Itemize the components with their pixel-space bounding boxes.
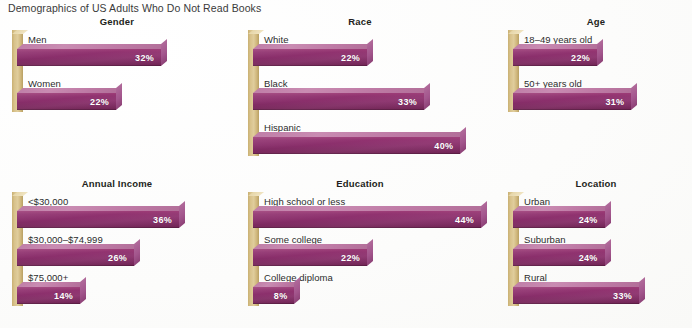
bar-end-cap [597, 39, 603, 66]
bar-value-label: 44% [455, 215, 474, 225]
bar-top-face [513, 88, 637, 93]
bar: 22% [253, 49, 367, 66]
bar-top-face [253, 44, 373, 49]
panel-race: RaceWhite22%Black33%Hispanic40% [240, 16, 480, 176]
bar-value-label: 8% [274, 291, 288, 301]
bar-value-label: 22% [571, 53, 590, 63]
plot-area: <$30,00036%$30,000–$74,99926%$75,000+14% [4, 192, 230, 328]
bar: 22% [253, 249, 367, 266]
axis-spine-top-face [12, 30, 28, 34]
bar: 44% [253, 211, 481, 228]
panel-gender: GenderMen32%Women22% [4, 16, 230, 176]
plot-area: Urban24%Suburban24%Rural33% [500, 192, 692, 328]
bar: 8% [253, 287, 294, 304]
bar-top-face [513, 244, 611, 249]
panel-age: Age18–49 years old22%50+ years old31% [500, 16, 692, 176]
plot-area: 18–49 years old22%50+ years old31% [500, 30, 692, 176]
bar: 14% [17, 287, 80, 304]
bar: 26% [17, 249, 134, 266]
bar: 32% [17, 49, 161, 66]
bar-front-face [253, 211, 481, 228]
axis-spine-top-face [248, 30, 264, 34]
bar: 33% [513, 287, 639, 304]
bar-value-label: 22% [90, 97, 109, 107]
bar: 24% [513, 249, 605, 266]
axis-spine-top-face [508, 30, 524, 34]
bar-top-face [513, 206, 611, 211]
bar-end-cap [179, 201, 185, 228]
bar-value-label: 36% [153, 215, 172, 225]
bar-end-cap [481, 201, 487, 228]
page-title: Demographics of US Adults Who Do Not Rea… [8, 2, 261, 14]
bar-top-face [253, 206, 487, 211]
bar-value-label: 22% [341, 253, 360, 263]
bar-end-cap [80, 277, 86, 304]
plot-area: Men32%Women22% [4, 30, 230, 176]
bar-top-face [17, 88, 122, 93]
bar: 22% [17, 93, 116, 110]
bar-top-face [253, 88, 430, 93]
bar-top-face [17, 206, 185, 211]
bar-end-cap [605, 201, 611, 228]
bar-end-cap [605, 239, 611, 266]
panel-title: Annual Income [4, 178, 230, 189]
bar-value-label: 24% [579, 215, 598, 225]
panel-location: LocationUrban24%Suburban24%Rural33% [500, 178, 692, 328]
bar-value-label: 14% [54, 291, 73, 301]
panel-education: EducationHigh school or less44%Some coll… [240, 178, 480, 328]
bar-value-label: 33% [613, 291, 632, 301]
bar-end-cap [460, 127, 466, 154]
bar: 36% [17, 211, 179, 228]
panel-title: Gender [4, 16, 230, 27]
bar: 24% [513, 211, 605, 228]
bar-top-face [17, 282, 86, 287]
bar-value-label: 31% [605, 97, 624, 107]
bar-end-cap [161, 39, 167, 66]
bar-end-cap [134, 239, 140, 266]
bar-end-cap [116, 83, 122, 110]
bar-front-face [253, 137, 460, 154]
bar-top-face [17, 244, 140, 249]
panel-title: Education [240, 178, 480, 189]
bar-value-label: 40% [434, 141, 453, 151]
bar-end-cap [367, 239, 373, 266]
axis-spine-top-face [248, 192, 264, 196]
bar-value-label: 24% [579, 253, 598, 263]
panel-title: Location [500, 178, 692, 189]
panel-title: Race [240, 16, 480, 27]
bar-top-face [253, 244, 373, 249]
bar-end-cap [639, 277, 645, 304]
bar-top-face [253, 132, 466, 137]
bar-top-face [17, 44, 167, 49]
axis-spine-top-face [12, 192, 28, 196]
bar-end-cap [424, 83, 430, 110]
bar-value-label: 22% [341, 53, 360, 63]
bar-top-face [513, 282, 645, 287]
bar: 33% [253, 93, 424, 110]
bar-value-label: 33% [398, 97, 417, 107]
bar-value-label: 26% [108, 253, 127, 263]
bar: 31% [513, 93, 631, 110]
bar-end-cap [367, 39, 373, 66]
bar: 40% [253, 137, 460, 154]
bar-end-cap [294, 277, 300, 304]
bar: 22% [513, 49, 597, 66]
panel-title: Age [500, 16, 692, 27]
plot-area: White22%Black33%Hispanic40% [240, 30, 480, 176]
bar-value-label: 32% [135, 53, 154, 63]
bar-top-face [513, 44, 603, 49]
panel-grid: GenderMen32%Women22%RaceWhite22%Black33%… [0, 16, 692, 328]
axis-spine-top-face [508, 192, 524, 196]
bar-end-cap [631, 83, 637, 110]
panel-annual-income: Annual Income<$30,00036%$30,000–$74,9992… [4, 178, 230, 328]
plot-area: High school or less44%Some college22%Col… [240, 192, 480, 328]
